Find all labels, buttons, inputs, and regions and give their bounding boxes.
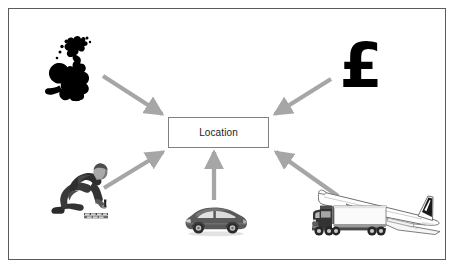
car-icon (183, 203, 249, 237)
diagram-canvas: Location (0, 0, 456, 272)
pound-glyph: £ (339, 35, 382, 97)
pound-sterling-icon: £ (330, 28, 392, 104)
worker-ground (84, 213, 108, 218)
center-node-label: Location (199, 128, 238, 138)
kneeling-worker-icon (48, 163, 120, 223)
uk-map-icon (40, 34, 110, 106)
center-node-location[interactable]: Location (168, 117, 269, 148)
truck-icon (310, 202, 392, 238)
